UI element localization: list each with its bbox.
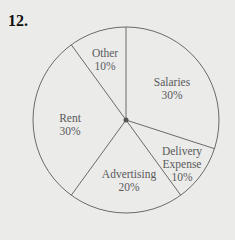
label-salaries: Salaries 30% [154,76,190,102]
label-rent: Rent 30% [59,112,81,138]
label-advertising: Advertising 20% [102,168,156,194]
label-other: Other 10% [92,47,118,73]
label-delivery-expense: Delivery Expense 10% [162,145,202,184]
center-dot [124,118,129,123]
